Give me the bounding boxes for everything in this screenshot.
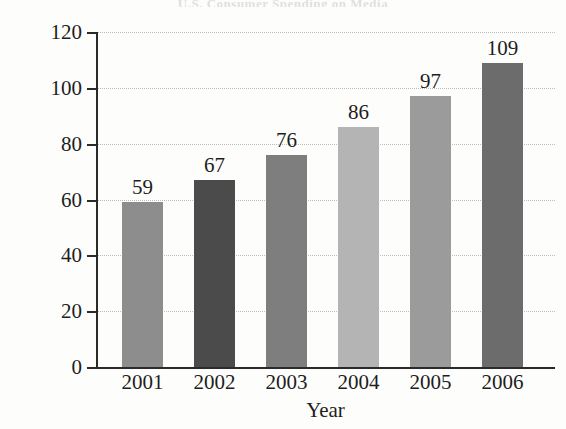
bar-value-label: 97 xyxy=(420,71,441,92)
y-axis-tick xyxy=(87,367,97,369)
y-axis-tick xyxy=(87,311,97,313)
y-axis-tick xyxy=(87,32,97,34)
y-axis-tick-label: 0 xyxy=(22,357,82,378)
y-axis-tick xyxy=(87,88,97,90)
bar-value-label: 109 xyxy=(487,38,519,59)
x-axis-label-2001: 2001 xyxy=(122,372,164,393)
x-axis-label-2006: 2006 xyxy=(482,372,524,393)
y-axis-tick xyxy=(87,144,97,146)
bar-2003: 76 xyxy=(266,155,307,367)
bar-2006: 109 xyxy=(482,63,523,367)
x-axis-title: Year xyxy=(96,400,555,421)
bar-value-label: 76 xyxy=(276,130,297,151)
y-axis-tick-label: 120 xyxy=(22,22,82,43)
y-axis-tick-label: 20 xyxy=(22,301,82,322)
x-axis-label-2002: 2002 xyxy=(194,372,236,393)
x-axis-label-2005: 2005 xyxy=(410,372,452,393)
y-axis-tick-label: 60 xyxy=(22,189,82,210)
x-axis-label-2003: 2003 xyxy=(266,372,308,393)
bar-2001: 59 xyxy=(122,202,163,367)
y-axis-tick-label: 40 xyxy=(22,245,82,266)
bar-2004: 86 xyxy=(338,127,379,367)
y-axis-tick-label: 100 xyxy=(22,77,82,98)
bar-value-label: 59 xyxy=(132,177,153,198)
y-axis-tick xyxy=(87,255,97,257)
y-axis-tick-label: 80 xyxy=(22,133,82,154)
bar-value-label: 86 xyxy=(348,102,369,123)
bar-2002: 67 xyxy=(194,180,235,367)
bar-value-label: 67 xyxy=(204,155,225,176)
cropped-title-remnant: U.S. Consumer Spending on Media xyxy=(0,0,566,7)
x-axis-label-2004: 2004 xyxy=(338,372,380,393)
bar-2005: 97 xyxy=(410,96,451,367)
chart-figure: U.S. Consumer Spending on Media Hours pe… xyxy=(0,0,566,429)
gridline xyxy=(98,32,555,33)
plot-area: 020406080100120 5967768697109 2001200220… xyxy=(96,32,555,368)
y-axis-tick xyxy=(87,200,97,202)
x-axis-line xyxy=(96,367,555,369)
